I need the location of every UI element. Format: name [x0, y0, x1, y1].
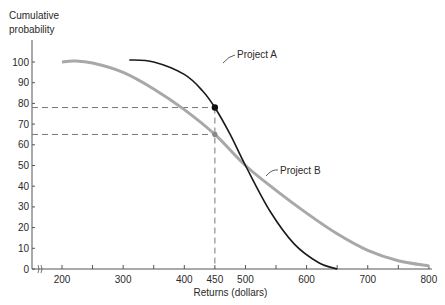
y-tick-label: 40 — [18, 181, 30, 192]
y-tick-label: 0 — [23, 264, 29, 275]
y-tick-label: 50 — [18, 160, 30, 171]
x-tick-label: 200 — [54, 274, 71, 285]
y-tick-label: 80 — [18, 98, 30, 109]
y-tick-label: 70 — [18, 119, 30, 130]
x-tick-label: 450 — [207, 274, 224, 285]
x-tick-label: 600 — [298, 274, 315, 285]
x-tick-label: 400 — [176, 274, 193, 285]
y-tick-label: 10 — [18, 243, 30, 254]
project-b-curve — [62, 61, 429, 266]
project-a-label: Project A — [237, 49, 277, 60]
project-b-label: Project B — [280, 165, 321, 176]
x-tick-label: 500 — [237, 274, 254, 285]
x-tick-label: 800 — [421, 274, 438, 285]
y-tick-label: 90 — [18, 77, 30, 88]
x-axis-title: Returns (dollars) — [0, 287, 445, 298]
y-tick-label: 20 — [18, 222, 30, 233]
y-tick-label: 60 — [18, 139, 30, 150]
x-tick-label: 700 — [359, 274, 376, 285]
y-tick-label: 30 — [18, 201, 30, 212]
x-tick-label: 300 — [115, 274, 132, 285]
y-tick-label: 100 — [12, 57, 29, 68]
cumulative-probability-chart: 0102030405060708090100200300400450500600… — [0, 0, 445, 305]
project-a-leader — [223, 55, 235, 63]
project-b-leader — [266, 170, 278, 176]
project-b-point — [212, 132, 217, 137]
project-a-point — [212, 104, 218, 110]
